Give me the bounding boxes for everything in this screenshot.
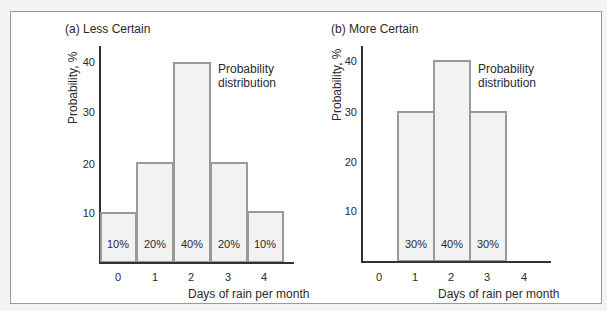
x-tick: 3	[477, 271, 497, 283]
panel-title: (a) Less Certain	[65, 22, 150, 36]
bar-label: 20%	[137, 238, 173, 250]
figure-frame: (a) Less Certain Probability, % 40 30 20…	[10, 11, 602, 304]
x-axis	[99, 262, 294, 264]
x-tick: 0	[108, 271, 128, 283]
bar-2	[173, 62, 211, 263]
x-axis-label: Days of rain per month	[188, 287, 309, 301]
x-tick: 1	[405, 271, 425, 283]
x-tick: 1	[145, 271, 165, 283]
x-tick: 0	[369, 271, 389, 283]
panel-less-certain: (a) Less Certain Probability, % 40 30 20…	[11, 12, 306, 303]
x-tick: 4	[514, 271, 534, 283]
y-tick: 20	[75, 158, 95, 170]
y-tick: 10	[75, 207, 95, 219]
bar-label: 30%	[398, 238, 434, 250]
x-tick: 4	[254, 271, 274, 283]
bar-label: 40%	[174, 238, 210, 250]
bar-label: 30%	[470, 238, 506, 250]
annotation: Probability distribution	[218, 62, 276, 90]
y-tick: 40	[337, 55, 357, 67]
y-tick: 40	[75, 56, 95, 68]
bar-label: 20%	[211, 238, 247, 250]
x-axis	[361, 261, 551, 263]
y-tick: 30	[337, 106, 357, 118]
panel-title: (b) More Certain	[331, 22, 418, 36]
x-tick: 2	[181, 271, 201, 283]
y-tick: 10	[337, 205, 357, 217]
x-tick: 3	[218, 271, 238, 283]
bar-4	[247, 211, 284, 263]
bar-label: 10%	[100, 238, 136, 250]
bar-2	[433, 60, 471, 262]
x-axis-label: Days of rain per month	[438, 287, 559, 301]
y-axis	[361, 46, 363, 262]
y-tick: 30	[75, 106, 95, 118]
x-tick: 2	[441, 271, 461, 283]
annotation: Probability distribution	[478, 62, 536, 90]
bar-label: 10%	[247, 238, 283, 250]
y-tick: 20	[337, 156, 357, 168]
panel-more-certain: (b) More Certain Probability, % 40 30 20…	[301, 12, 601, 303]
bar-label: 40%	[434, 238, 470, 250]
